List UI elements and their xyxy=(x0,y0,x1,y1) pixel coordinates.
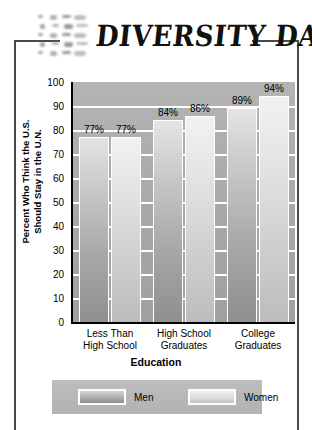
bar-men-1[interactable] xyxy=(153,120,183,322)
bar-value-label: 94% xyxy=(254,83,294,94)
legend-label: Women xyxy=(244,392,278,403)
mosaic-tile xyxy=(50,51,57,56)
y-axis-tick-label: 90 xyxy=(30,101,64,112)
legend-label: Men xyxy=(134,392,153,403)
bar-men-2[interactable] xyxy=(227,108,257,322)
bar-women-2[interactable] xyxy=(259,96,289,322)
legend-item-women[interactable]: Women xyxy=(188,388,278,406)
y-axis-tick-label: 20 xyxy=(30,269,64,280)
mosaic-tile xyxy=(64,24,73,29)
bar-value-label: 89% xyxy=(222,95,262,106)
bar-men-0[interactable] xyxy=(79,137,109,322)
y-axis-line xyxy=(71,82,73,324)
y-axis-ticks: 1009080706050403020100 xyxy=(30,76,68,322)
category-label-line: Graduates xyxy=(161,340,208,351)
category-label-line: College xyxy=(241,328,275,339)
bar-value-label: 86% xyxy=(180,103,220,114)
mosaic-tile xyxy=(76,24,88,27)
mosaic-tile xyxy=(74,15,86,20)
diversity-data-chart-page: DIVERSITY DATA Percent Who Think the U.S… xyxy=(0,0,312,430)
chart-header: DIVERSITY DATA xyxy=(0,0,312,66)
y-axis-tick-label: 60 xyxy=(30,173,64,184)
mosaic-tile xyxy=(62,51,71,54)
y-axis-tick-label: 0 xyxy=(30,317,64,328)
mosaic-tile xyxy=(74,33,86,38)
category-label-line: Less Than xyxy=(87,328,134,339)
x-axis-title: Education xyxy=(0,356,312,368)
men-swatch xyxy=(78,389,126,405)
bar-women-0[interactable] xyxy=(111,137,141,322)
y-axis-tick-label: 10 xyxy=(30,293,64,304)
bar-women-1[interactable] xyxy=(185,116,215,322)
mosaic-tile xyxy=(62,33,71,36)
y-axis-tick-label: 100 xyxy=(30,77,64,88)
mosaic-tile xyxy=(38,51,43,54)
bar-chart: Percent Who Think the U.S. Should Stay i… xyxy=(0,66,312,366)
mosaic-tile xyxy=(62,15,71,18)
page-title: DIVERSITY DATA xyxy=(93,11,283,60)
category-label-line: Graduates xyxy=(235,340,282,351)
y-axis-tick-label: 50 xyxy=(30,197,64,208)
mosaic-tile xyxy=(40,24,45,29)
y-axis-tick-label: 70 xyxy=(30,149,64,160)
category-label-line: High School xyxy=(83,340,137,351)
women-swatch xyxy=(188,389,236,405)
mosaic-tile xyxy=(40,42,45,47)
mosaic-tile xyxy=(50,33,57,38)
x-axis-category-label: CollegeGraduates xyxy=(215,328,301,352)
x-axis-line xyxy=(73,322,295,324)
chart-legend: MenWomen xyxy=(52,380,262,414)
mosaic-tile xyxy=(50,15,57,20)
y-axis-tick-label: 40 xyxy=(30,221,64,232)
mosaic-tile xyxy=(74,51,86,56)
mosaic-tile xyxy=(38,33,43,36)
category-label-line: High School xyxy=(157,328,211,339)
y-axis-tick-label: 80 xyxy=(30,125,64,136)
mosaic-tile xyxy=(64,42,73,47)
mosaic-tile xyxy=(76,42,88,45)
mosaic-tiles-icon xyxy=(36,12,88,60)
y-axis-title-line1: Percent Who Think the U.S. xyxy=(20,119,31,243)
y-axis-tick-label: 30 xyxy=(30,245,64,256)
mosaic-tile xyxy=(38,15,43,18)
legend-item-men[interactable]: Men xyxy=(78,388,153,406)
mosaic-tile xyxy=(52,42,59,45)
mosaic-tile xyxy=(52,24,59,27)
bar-value-label: 77% xyxy=(106,124,146,135)
